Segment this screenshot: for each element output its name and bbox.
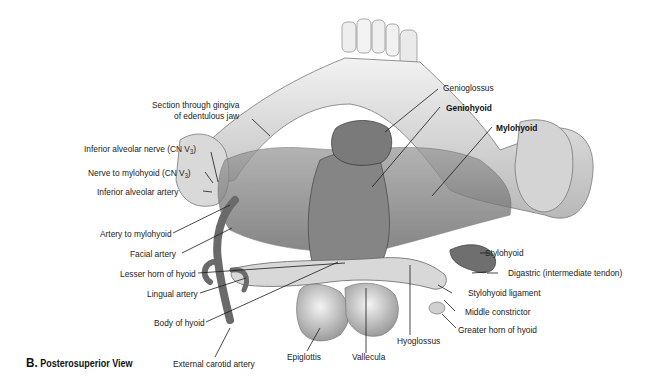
genioglossus-stump [332, 121, 392, 166]
panel-letter: B. [26, 355, 38, 370]
label-epiglottis: Epiglottis [287, 351, 321, 362]
hyoid-bone [231, 258, 446, 290]
vallecula [345, 283, 398, 336]
label-section-gingiva-line2: of edentulous jaw [174, 110, 239, 121]
label-hyoglossus: Hyoglossus [397, 335, 440, 346]
label-geniohyoid: Geniohyoid [446, 102, 492, 113]
label-greater-horn-of-hyoid: Greater horn of hyoid [458, 324, 537, 335]
label-inferior-alveolar-artery: Inferior alveolar artery [97, 186, 178, 197]
label-lesser-horn-of-hyoid: Lesser horn of hyoid [120, 268, 196, 279]
label-genioglossus: Genioglossus [443, 82, 494, 93]
figure-caption: B. Posterosuperior View [26, 355, 133, 370]
label-middle-constrictor: Middle constrictor [465, 306, 531, 317]
label-external-carotid-artery: External carotid artery [173, 358, 255, 369]
label-vallecula: Vallecula [352, 351, 385, 362]
label-stylohyoid-ligament: Stylohyoid ligament [468, 287, 541, 298]
label-digastric: Digastric (intermediate tendon) [508, 267, 622, 278]
right-ramus-section [515, 120, 573, 212]
label-stylohyoid: Stylohyoid [485, 247, 524, 258]
label-lingual-artery: Lingual artery [147, 288, 198, 299]
greater-horn-tip [429, 302, 445, 314]
epiglottis [297, 284, 349, 341]
panel-title: Posterosuperior View [40, 358, 132, 369]
label-nerve-to-mylohyoid: Nerve to mylohyoid (CN V3) [88, 167, 191, 181]
label-body-of-hyoid: Body of hyoid [154, 317, 205, 328]
label-mylohyoid: Mylohyoid [496, 122, 537, 133]
label-artery-to-mylohyoid: Artery to mylohyoid [100, 228, 172, 239]
label-inferior-alveolar-nerve: Inferior alveolar nerve (CN V3) [84, 143, 196, 157]
label-section-gingiva-line1: Section through gingiva [152, 99, 239, 110]
geniohyoid-muscle [308, 153, 389, 272]
label-facial-artery: Facial artery [130, 248, 176, 259]
